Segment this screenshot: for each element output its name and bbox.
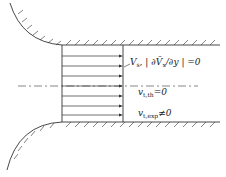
vt-th-subscript: t,th xyxy=(143,91,154,98)
vt-exp-value: ≠0 xyxy=(158,108,171,118)
bottom-hatch xyxy=(14,122,215,159)
vt-th-value: =0 xyxy=(154,87,167,97)
vs-derivative: , | ∂V̄ xyxy=(140,57,163,67)
vt-th-label: vt,th=0 xyxy=(138,87,167,98)
vt-exp-subscript: t,exp xyxy=(143,112,158,119)
arrow-heads xyxy=(119,55,123,117)
channel-diagram xyxy=(0,0,226,177)
vs-tail: /∂y | =0 xyxy=(166,57,201,67)
vs-label: Vs, | ∂V̄x/∂y | =0 xyxy=(130,57,201,68)
vt-exp-label: vt,exp≠0 xyxy=(138,108,171,119)
bottom-wall xyxy=(7,122,220,170)
top-hatch xyxy=(18,10,215,45)
velocity-arrows xyxy=(62,56,121,115)
